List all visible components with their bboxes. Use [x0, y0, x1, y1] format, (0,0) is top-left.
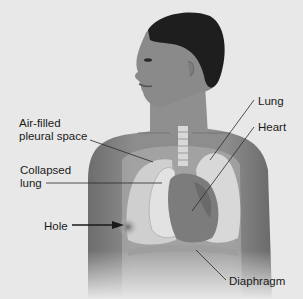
label-line: Air-filled [19, 117, 87, 130]
label-line: lung [20, 177, 71, 190]
label-diaphragm: Diaphragm [229, 275, 285, 288]
label-lung: Lung [258, 95, 284, 108]
head [135, 12, 225, 108]
collapsed-lung-diagram: Air-filled pleural space Collapsed lung … [0, 0, 303, 299]
eye [144, 58, 152, 62]
trachea [178, 126, 188, 166]
label-line: Collapsed [20, 164, 71, 177]
label-air-filled-pleural-space: Air-filled pleural space [19, 117, 87, 143]
label-line: pleural space [19, 130, 87, 143]
label-collapsed-lung: Collapsed lung [20, 164, 71, 190]
label-hole: Hole [44, 220, 68, 233]
label-heart: Heart [258, 121, 286, 134]
anatomy-illustration [0, 0, 303, 299]
hole-shade [118, 217, 138, 237]
